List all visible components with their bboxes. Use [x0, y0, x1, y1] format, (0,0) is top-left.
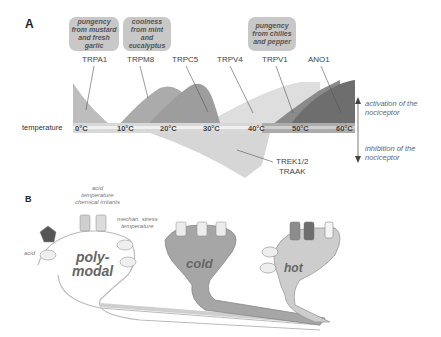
panel-b-diagram: [0, 0, 441, 337]
polymodal-line2: modal: [72, 264, 113, 278]
polymodal-neuron-label: poly- modal: [72, 250, 113, 278]
acid-label: acid: [24, 250, 35, 257]
cold-neuron-label: cold: [186, 256, 213, 271]
polymodal-stimuli-label: acid temperature chemical irritants: [75, 185, 120, 206]
stimulus-mechanical-stress: mechan. stress: [117, 216, 158, 223]
stimulus-temperature: temperature: [75, 192, 120, 199]
polymodal-line1: poly-: [72, 250, 113, 264]
stimulus-acid: acid: [75, 185, 120, 192]
mechanical-stimuli-label: mechan. stress temperature: [117, 216, 158, 230]
hot-neuron-body: [274, 228, 340, 322]
cold-channels: [176, 222, 226, 236]
hot-neuron-label: hot: [284, 261, 303, 275]
stimulus-chemical-irritants: chemical irritants: [75, 199, 120, 206]
stimulus-temperature-2: temperature: [117, 223, 158, 230]
